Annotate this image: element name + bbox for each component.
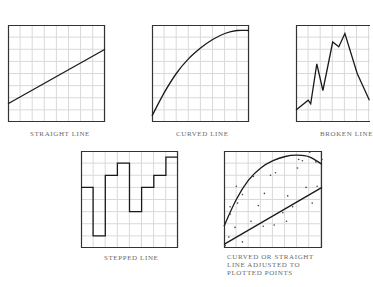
plotted-point xyxy=(292,206,294,208)
plotted-point xyxy=(236,185,238,187)
plotted-point xyxy=(270,175,272,177)
plotted-point xyxy=(311,202,313,204)
fitted-line-caption: CURVED OR STRAIGHT LINE ADJUSTED TO PLOT… xyxy=(227,253,314,277)
fitted-line-plot xyxy=(224,151,322,248)
stepped-line-caption: STEPPED LINE xyxy=(104,254,158,262)
plotted-point xyxy=(234,227,236,229)
plotted-point xyxy=(258,205,260,207)
plotted-point xyxy=(315,161,317,163)
straight-line-caption: STRAIGHT LINE xyxy=(30,130,90,138)
fitted-caption-line-2: LINE ADJUSTED TO xyxy=(227,261,314,269)
plotted-point xyxy=(297,167,299,169)
plotted-point xyxy=(228,236,230,238)
plotted-point xyxy=(309,151,311,153)
plotted-point xyxy=(316,185,318,187)
plotted-point xyxy=(302,160,304,162)
stepped-line-plot xyxy=(81,151,178,248)
fitted-line-chart xyxy=(224,151,322,248)
plotted-point xyxy=(298,159,300,161)
curved-line-plot xyxy=(152,25,249,122)
plotted-point xyxy=(242,194,244,196)
plotted-point xyxy=(262,225,264,227)
plotted-point xyxy=(242,241,244,243)
straight-line-plot xyxy=(8,25,105,122)
plotted-point xyxy=(237,202,239,204)
plotted-point xyxy=(224,245,226,247)
plotted-point xyxy=(305,187,307,189)
plotted-point xyxy=(321,159,323,161)
broken-line-plot xyxy=(296,25,370,122)
fitted-caption-line-1: CURVED OR STRAIGHT xyxy=(227,253,314,261)
curved-line-caption: CURVED LINE xyxy=(176,130,229,138)
plotted-point xyxy=(229,213,231,215)
plotted-point xyxy=(253,176,255,178)
curved-line-chart xyxy=(152,25,249,122)
broken-line-caption: BROKEN LINE xyxy=(320,130,373,138)
plotted-point xyxy=(273,224,275,226)
stepped-line-chart xyxy=(81,151,178,248)
plotted-point xyxy=(229,206,231,208)
plotted-point xyxy=(250,221,252,223)
plotted-point xyxy=(286,221,288,223)
plotted-point xyxy=(275,172,277,174)
fitted-caption-line-3: PLOTTED POINTS xyxy=(227,269,314,277)
straight-line-chart xyxy=(8,25,105,122)
plotted-point xyxy=(282,212,284,214)
plotted-point xyxy=(264,193,266,195)
plotted-point xyxy=(287,195,289,197)
broken-line-chart xyxy=(296,25,370,122)
